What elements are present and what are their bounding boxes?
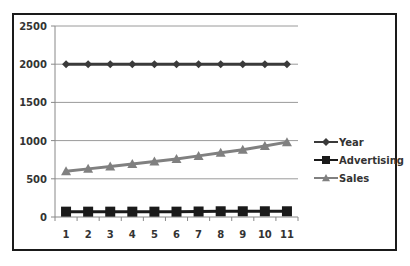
square-marker bbox=[282, 206, 292, 216]
diamond-marker bbox=[106, 60, 114, 68]
square-marker bbox=[172, 207, 182, 217]
y-tick-label: 2000 bbox=[19, 59, 47, 70]
diamond-marker bbox=[217, 60, 225, 68]
y-tick-label: 0 bbox=[40, 212, 47, 223]
diamond-marker bbox=[62, 60, 70, 68]
diamond-marker bbox=[173, 60, 181, 68]
x-tick-label: 7 bbox=[195, 229, 202, 240]
series-advertising bbox=[61, 206, 292, 216]
legend-label: Advertising bbox=[339, 155, 404, 166]
line-chart: 05001000150020002500 1234567891011 YearA… bbox=[0, 0, 410, 266]
x-tick-label: 4 bbox=[129, 229, 136, 240]
x-tick-label: 1 bbox=[63, 229, 70, 240]
square-marker bbox=[216, 206, 226, 216]
square-marker bbox=[238, 206, 248, 216]
legend-item-sales: Sales bbox=[314, 173, 369, 184]
square-marker bbox=[194, 206, 204, 216]
y-axis: 05001000150020002500 bbox=[19, 21, 55, 223]
diamond-marker bbox=[195, 60, 203, 68]
diamond-marker bbox=[84, 60, 92, 68]
square-marker bbox=[260, 206, 270, 216]
y-tick-label: 2500 bbox=[19, 21, 47, 32]
legend-label: Sales bbox=[339, 173, 369, 184]
x-tick-label: 8 bbox=[217, 229, 224, 240]
y-tick-label: 1000 bbox=[19, 136, 47, 147]
square-marker bbox=[83, 207, 93, 217]
square-marker bbox=[61, 207, 71, 217]
legend-label: Year bbox=[338, 137, 364, 148]
x-tick-label: 5 bbox=[151, 229, 158, 240]
y-tick-label: 1500 bbox=[19, 97, 47, 108]
legend-item-year: Year bbox=[314, 137, 364, 148]
x-tick-label: 11 bbox=[280, 229, 294, 240]
series-year bbox=[62, 60, 291, 68]
diamond-marker bbox=[128, 60, 136, 68]
diamond-marker bbox=[261, 60, 269, 68]
x-tick-label: 10 bbox=[258, 229, 272, 240]
square-marker bbox=[127, 207, 137, 217]
x-tick-label: 9 bbox=[239, 229, 246, 240]
y-tick-label: 500 bbox=[26, 174, 47, 185]
square-marker bbox=[149, 207, 159, 217]
square-marker bbox=[322, 156, 330, 164]
legend-item-advertising: Advertising bbox=[314, 155, 404, 166]
diamond-marker bbox=[150, 60, 158, 68]
x-tick-label: 3 bbox=[107, 229, 114, 240]
x-tick-label: 2 bbox=[85, 229, 92, 240]
series-sales bbox=[61, 137, 292, 175]
square-marker bbox=[105, 207, 115, 217]
diamond-marker bbox=[322, 138, 330, 146]
x-tick-label: 6 bbox=[173, 229, 180, 240]
legend: YearAdvertisingSales bbox=[314, 137, 404, 184]
diamond-marker bbox=[239, 60, 247, 68]
x-axis: 1234567891011 bbox=[55, 217, 298, 240]
diamond-marker bbox=[283, 60, 291, 68]
series-group bbox=[61, 60, 292, 216]
